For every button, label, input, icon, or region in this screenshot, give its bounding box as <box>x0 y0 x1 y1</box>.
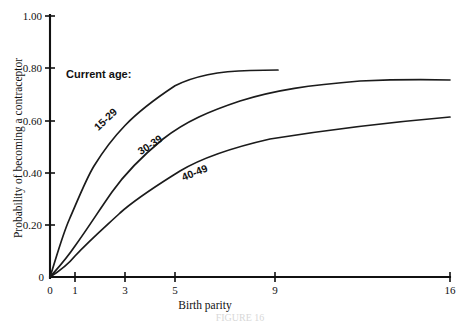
x-tick-group: 0 1 3 5 9 16 <box>47 272 456 296</box>
y-tick-label-1.00: 1.00 <box>23 10 43 22</box>
figure-caption: FIGURE 16 <box>216 312 265 323</box>
x-tick-label-9: 9 <box>272 284 278 296</box>
curve-label-30-39: 30-39 <box>135 132 164 157</box>
legend-title: Current age: <box>66 68 131 80</box>
x-tick-label-0: 0 <box>47 284 53 296</box>
figure-root: 1.00 0.80 0.60 0.40 0.20 0 0 1 3 5 9 16 … <box>0 0 470 324</box>
x-tick-label-3: 3 <box>122 284 128 296</box>
curve-40-49 <box>50 117 450 277</box>
x-tick-label-1: 1 <box>72 284 78 296</box>
x-tick-label-16: 16 <box>445 284 457 296</box>
chart-canvas: 1.00 0.80 0.60 0.40 0.20 0 0 1 3 5 9 16 … <box>0 0 470 324</box>
curves-group <box>50 70 450 277</box>
y-tick-label-0: 0 <box>39 271 45 283</box>
x-tick-label-5: 5 <box>172 284 178 296</box>
curve-label-40-49: 40-49 <box>180 162 210 183</box>
y-axis-title: Probability of becoming a contraceptor <box>12 58 25 238</box>
y-tick-label-0.40: 0.40 <box>23 167 43 179</box>
axes-group <box>50 15 450 278</box>
curve-label-15-29: 15-29 <box>91 105 119 132</box>
x-axis-title: Birth parity <box>178 299 232 312</box>
y-tick-label-0.20: 0.20 <box>23 219 43 231</box>
y-tick-label-0.60: 0.60 <box>23 115 43 127</box>
y-tick-label-0.80: 0.80 <box>23 62 43 74</box>
